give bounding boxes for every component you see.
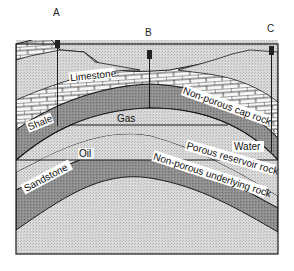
svg-text:Oil: Oil [79,148,91,159]
svg-text:Water: Water [234,141,261,152]
derrick-icon [147,50,152,59]
label-water: Water [232,141,264,152]
derrick-icon [55,40,60,48]
well-label-a: A [53,7,60,18]
well-label-b: B [145,27,152,38]
well-label-c: C [267,23,274,34]
label-gas: Gas [117,113,135,124]
geological-cross-section: A B C Limestone Shale Gas Non-porous cap… [0,0,294,271]
derrick-icon [269,46,274,55]
svg-text:Gas: Gas [117,113,135,124]
label-oil: Oil [78,148,94,159]
